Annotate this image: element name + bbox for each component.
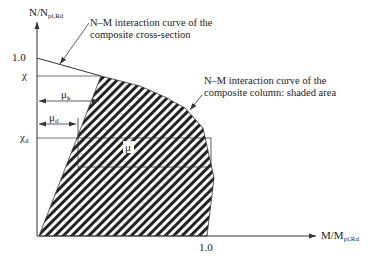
mu-d-sub: d <box>55 117 59 125</box>
y-axis-label-main: N/N <box>29 6 48 18</box>
cross-section-annotation: N–M interaction curve of the composite c… <box>90 17 212 41</box>
x-axis-label-main: M/M <box>321 229 344 241</box>
cross-section-leader <box>60 23 89 64</box>
mu-k-sub: k <box>67 94 71 102</box>
chi-d-label: χd <box>20 132 28 145</box>
y-axis-label: N/Npl,Rd <box>29 7 63 20</box>
cross-section-annotation-line1: N–M interaction curve of the <box>90 17 212 29</box>
chi-d-sub: d <box>25 137 29 145</box>
y-axis-label-sub: pl,Rd <box>48 12 63 20</box>
mu-label: μ <box>125 142 131 153</box>
x-axis-label-sub: pl,Rd <box>344 235 359 243</box>
chi-label: χ <box>22 70 27 81</box>
column-annotation-line1: N–M interaction curve of the <box>204 75 336 87</box>
mu-k-label: μk <box>61 89 70 102</box>
x-tick-1: 1.0 <box>199 242 213 253</box>
cross-section-annotation-line2: composite cross-section <box>90 29 212 41</box>
cross-section-curve <box>37 58 101 76</box>
column-annotation-line2: composite column: shaded area <box>204 87 336 99</box>
x-axis-label: M/Mpl,Rd <box>321 230 359 243</box>
y-tick-1: 1.0 <box>12 52 26 63</box>
column-annotation: N–M interaction curve of the composite c… <box>204 75 336 99</box>
column-leader <box>190 95 202 110</box>
mu-d-label: μd <box>49 112 58 125</box>
